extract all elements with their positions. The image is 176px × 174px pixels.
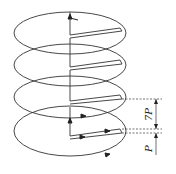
feed-structure [70,12,122,139]
arrow-up-icon [68,118,72,123]
arrow-right-icon [80,135,85,139]
dimension-label-p: P [143,145,154,153]
arrow-right-icon [105,129,110,133]
dimension-label-7p: 7P [143,108,154,121]
coil-diagram: 7P P [0,0,176,174]
arrow-right-icon [105,153,110,157]
